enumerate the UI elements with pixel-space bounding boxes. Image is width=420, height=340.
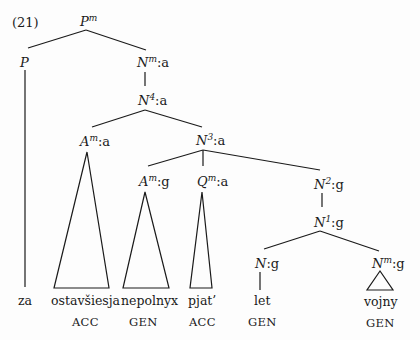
edge-n3-amg <box>148 150 203 166</box>
word-vojny: vojny <box>364 296 398 309</box>
triangle-qm-a <box>190 192 212 288</box>
edge-n1-nmg <box>320 231 379 251</box>
node-n4-a: N4:a <box>138 93 167 107</box>
triangle-am-g <box>123 192 169 288</box>
node-nm-g: Nm:g <box>372 256 405 270</box>
edge-root-nm <box>86 30 146 50</box>
case-label-vojny: GEN <box>366 318 395 330</box>
word-ostavsiesja: ostavšiesja <box>51 295 120 308</box>
syntax-tree-diagram: (21) Pm P Nm:a N4:a Am:a N3:a Am:g Qm:a … <box>0 0 420 340</box>
node-n-g: N:g <box>255 257 279 270</box>
word-let: let <box>254 295 270 308</box>
node-am-a: Am:a <box>80 134 110 148</box>
edge-n3-n2 <box>203 150 320 170</box>
node-qm-a: Qm:a <box>197 174 228 188</box>
word-pjat: pjat’ <box>188 295 216 308</box>
word-za: za <box>18 295 32 308</box>
edge-n4-n3 <box>145 110 202 127</box>
node-n1-g: N1:g <box>314 215 344 229</box>
case-label-nepolnyx: GEN <box>129 317 158 329</box>
case-label-ostavsiesja: ACC <box>72 317 99 329</box>
node-n2-g: N2:g <box>314 177 344 191</box>
triangle-nm-g <box>367 271 393 290</box>
edge-root-p <box>28 30 86 48</box>
edge-n4-am <box>92 110 145 127</box>
case-label-pjat: ACC <box>189 317 216 329</box>
example-number: (21) <box>12 16 39 29</box>
triangle-am-a <box>54 152 109 288</box>
tree-edges <box>0 0 420 340</box>
node-am-g: Am:g <box>139 174 170 188</box>
case-label-let: GEN <box>248 317 277 329</box>
node-n3-a: N3:a <box>196 133 225 147</box>
edge-n1-n <box>264 231 320 249</box>
word-nepolnyx: nepolnyx <box>121 295 178 308</box>
node-nm-a: Nm:a <box>137 55 169 69</box>
node-p: P <box>20 56 29 69</box>
node-root: Pm <box>80 14 97 28</box>
